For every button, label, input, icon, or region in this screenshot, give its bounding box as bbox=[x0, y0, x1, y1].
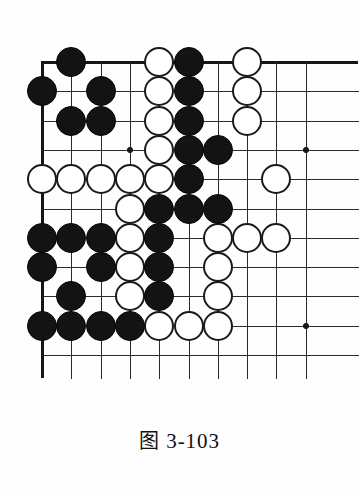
black-stone bbox=[144, 252, 174, 282]
black-stone bbox=[56, 311, 86, 341]
go-board bbox=[0, 0, 359, 400]
board-line-vertical bbox=[306, 62, 307, 379]
black-stone bbox=[56, 223, 86, 253]
black-stone bbox=[27, 252, 57, 282]
black-stone bbox=[174, 194, 204, 224]
white-stone bbox=[56, 164, 86, 194]
white-stone bbox=[232, 76, 262, 106]
black-stone bbox=[174, 76, 204, 106]
black-stone bbox=[174, 106, 204, 136]
figure-root: 图 3-103 bbox=[0, 0, 359, 495]
white-stone bbox=[232, 47, 262, 77]
black-stone bbox=[203, 135, 233, 165]
black-stone bbox=[203, 194, 233, 224]
white-stone bbox=[27, 164, 57, 194]
white-stone bbox=[144, 164, 174, 194]
board-line-vertical bbox=[276, 62, 277, 379]
black-stone bbox=[27, 223, 57, 253]
black-stone bbox=[56, 281, 86, 311]
white-stone bbox=[144, 311, 174, 341]
black-stone bbox=[144, 194, 174, 224]
star-point bbox=[303, 323, 309, 329]
black-stone bbox=[56, 47, 86, 77]
black-stone bbox=[56, 106, 86, 136]
star-point bbox=[303, 147, 309, 153]
figure-caption-prefix: 图 bbox=[139, 429, 160, 453]
figure-caption-number: 3-103 bbox=[166, 429, 220, 453]
black-stone bbox=[174, 164, 204, 194]
white-stone bbox=[261, 223, 291, 253]
black-stone bbox=[144, 281, 174, 311]
white-stone bbox=[144, 76, 174, 106]
white-stone bbox=[144, 135, 174, 165]
black-stone bbox=[27, 76, 57, 106]
white-stone bbox=[232, 223, 262, 253]
black-stone bbox=[86, 223, 116, 253]
star-point bbox=[127, 147, 133, 153]
white-stone bbox=[203, 252, 233, 282]
board-line-horizontal bbox=[42, 355, 359, 356]
white-stone bbox=[115, 164, 145, 194]
black-stone bbox=[144, 223, 174, 253]
white-stone bbox=[232, 106, 262, 136]
black-stone bbox=[115, 311, 145, 341]
white-stone bbox=[144, 106, 174, 136]
black-stone bbox=[86, 76, 116, 106]
white-stone bbox=[261, 164, 291, 194]
black-stone bbox=[174, 135, 204, 165]
white-stone bbox=[203, 311, 233, 341]
white-stone bbox=[115, 252, 145, 282]
white-stone bbox=[203, 223, 233, 253]
board-line-horizontal bbox=[42, 296, 359, 297]
white-stone bbox=[203, 281, 233, 311]
black-stone bbox=[27, 311, 57, 341]
white-stone bbox=[174, 311, 204, 341]
white-stone bbox=[115, 194, 145, 224]
white-stone bbox=[115, 281, 145, 311]
black-stone bbox=[86, 311, 116, 341]
white-stone bbox=[144, 47, 174, 77]
black-stone bbox=[86, 252, 116, 282]
black-stone bbox=[86, 106, 116, 136]
white-stone bbox=[86, 164, 116, 194]
white-stone bbox=[115, 223, 145, 253]
figure-caption: 图 3-103 bbox=[0, 425, 359, 454]
black-stone bbox=[174, 47, 204, 77]
